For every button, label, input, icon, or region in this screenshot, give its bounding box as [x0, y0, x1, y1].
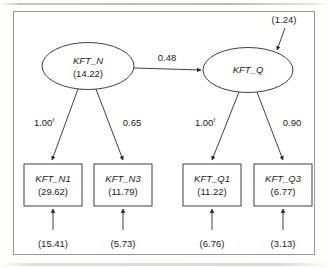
loading-fixed-marker-kft-n1: f — [52, 116, 54, 122]
latent-value-kft-n: (14.22) — [73, 68, 103, 79]
observed-value-kft-n3: (11.79) — [108, 186, 137, 197]
residual-label-kft-q3: (3.13) — [271, 238, 296, 249]
residual-label-kft-n1: (15.41) — [38, 238, 68, 249]
loading-label-kft-q1: 1.00f — [195, 116, 216, 127]
observed-label-kft-q1: KFT_Q1 — [194, 173, 230, 184]
observed-label-kft-n1: KFT_N1 — [35, 173, 70, 184]
latent-node-kft-q[interactable]: KFT_Q — [203, 48, 293, 93]
loading-path-kft-q-to-kft-q1 — [212, 92, 239, 160]
disturbance-label-kft-q: (1.24) — [272, 14, 297, 25]
latent-label-kft-q: KFT_Q — [233, 64, 264, 75]
loading-label-kft-q3: 0.90 — [283, 117, 302, 128]
loading-value-kft-q1: 1.00 — [195, 117, 214, 128]
loading-value-kft-q3: 0.90 — [283, 117, 302, 128]
observed-label-kft-n3: KFT_N3 — [105, 173, 141, 184]
diagram-page: KFT_N (14.22) KFT_Q 0.48 (1.24) 1.00f 0.… — [0, 0, 328, 268]
structural-path-kft-n-to-kft-q — [134, 68, 201, 70]
disturbance-arrow-kft-q — [277, 28, 285, 50]
loading-value-kft-n1: 1.00 — [34, 117, 53, 128]
residual-label-kft-q1: (6.76) — [200, 238, 225, 249]
latent-label-kft-n: KFT_N — [73, 55, 103, 66]
latent-node-kft-n[interactable]: KFT_N (14.22) — [42, 43, 134, 90]
observed-node-kft-n1[interactable]: KFT_N1 (29.62) — [24, 164, 82, 206]
observed-label-kft-q3: KFT_Q3 — [265, 173, 302, 184]
loading-fixed-marker-kft-q1: f — [213, 116, 215, 122]
loading-label-kft-n3: 0.65 — [123, 117, 142, 128]
loading-value-kft-n3: 0.65 — [123, 117, 142, 128]
structural-path-label: 0.48 — [158, 52, 177, 63]
loading-path-kft-q-to-kft-q3 — [257, 92, 283, 160]
residual-label-kft-n3: (5.73) — [111, 238, 136, 249]
observed-node-kft-q1[interactable]: KFT_Q1 (11.22) — [183, 164, 241, 206]
observed-node-kft-q3[interactable]: KFT_Q3 (6.77) — [254, 164, 312, 206]
path-diagram-canvas: KFT_N (14.22) KFT_Q 0.48 (1.24) 1.00f 0.… — [0, 0, 328, 268]
loading-path-kft-n-to-kft-n3 — [96, 89, 123, 160]
observed-value-kft-q3: (6.77) — [271, 186, 296, 197]
ellipse-kft-n — [42, 43, 134, 90]
loading-label-kft-n1: 1.00f — [34, 116, 55, 127]
observed-value-kft-q1: (11.22) — [197, 186, 226, 197]
observed-node-kft-n3[interactable]: KFT_N3 (11.79) — [94, 164, 152, 206]
observed-value-kft-n1: (29.62) — [38, 186, 68, 197]
loading-path-kft-n-to-kft-n1 — [52, 89, 78, 160]
